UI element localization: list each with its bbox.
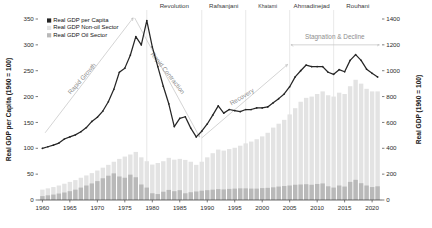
- x-tick-label: 2000: [255, 204, 269, 211]
- data-point: [278, 98, 280, 100]
- y-axis-title-right: Real GDP (1960 = 100): [415, 75, 423, 144]
- bar-nonoil: [326, 95, 330, 200]
- bar-nonoil: [359, 84, 363, 200]
- bar-oil: [51, 195, 55, 200]
- bar-oil: [183, 193, 187, 200]
- annotation-label-recovery: Recovery: [228, 86, 256, 107]
- bar-oil: [266, 188, 270, 200]
- bar-oil: [309, 185, 313, 200]
- bar-oil: [79, 188, 83, 200]
- bar-oil: [282, 186, 286, 200]
- data-point: [327, 71, 329, 73]
- data-point: [250, 109, 252, 111]
- data-point: [305, 64, 307, 66]
- data-point: [151, 46, 153, 48]
- legend-label-1: Real GDP Non-oil Sector: [53, 24, 118, 30]
- annotation-label-rapid-growth: Rapid Growth: [66, 61, 98, 96]
- data-point: [129, 54, 131, 56]
- bar-nonoil: [342, 94, 346, 200]
- data-point: [64, 138, 66, 140]
- bar-oil: [117, 176, 121, 200]
- x-tick-label: 1965: [63, 204, 77, 211]
- data-point: [316, 66, 318, 68]
- y-tick-label-right: 1400: [386, 15, 400, 22]
- data-point: [283, 93, 285, 95]
- data-point: [261, 107, 263, 109]
- bar-oil: [304, 184, 308, 200]
- y-tick-label-right: 0: [386, 196, 390, 203]
- data-point: [162, 85, 164, 87]
- bar-nonoil: [331, 97, 335, 200]
- data-point: [217, 105, 219, 107]
- y-tick-label-right: 400: [386, 144, 397, 151]
- annotation-arrow-rapid-contraction: [135, 18, 200, 137]
- data-point: [173, 126, 175, 128]
- bar-oil: [249, 189, 253, 200]
- data-point: [360, 60, 362, 62]
- x-tick-label: 1980: [145, 204, 159, 211]
- bar-oil: [178, 190, 182, 200]
- y-tick-label-left: 250: [23, 67, 34, 74]
- bar-oil: [84, 186, 88, 200]
- data-point: [212, 114, 214, 116]
- annotation-label-stagnation-decline: Stagnation & Decline: [305, 33, 365, 41]
- data-point: [371, 72, 373, 74]
- x-tick-label: 2015: [338, 204, 352, 211]
- bar-oil: [106, 176, 110, 200]
- bar-oil: [244, 188, 248, 200]
- data-point: [223, 112, 225, 114]
- bar-oil: [320, 183, 324, 200]
- data-point: [234, 110, 236, 112]
- data-point: [91, 121, 93, 123]
- data-point: [206, 123, 208, 125]
- data-point: [322, 66, 324, 68]
- bar-oil: [172, 191, 176, 200]
- data-point: [184, 116, 186, 118]
- data-point: [366, 68, 368, 70]
- data-point: [256, 107, 258, 109]
- bar-oil: [189, 192, 193, 200]
- y-tick-label-left: 150: [23, 119, 34, 126]
- legend-label-0: Real GDP per Capita: [53, 17, 109, 23]
- y-tick-label-left: 200: [23, 93, 34, 100]
- bar-oil: [331, 188, 335, 200]
- bar-oil: [112, 173, 116, 200]
- bar-oil: [101, 178, 105, 200]
- data-point: [124, 67, 126, 69]
- bar-oil: [238, 188, 242, 200]
- data-point: [294, 76, 296, 78]
- data-point: [333, 73, 335, 75]
- bar-nonoil: [337, 93, 341, 200]
- data-point: [245, 109, 247, 111]
- bar-oil: [326, 186, 330, 200]
- x-tick-label: 2010: [310, 204, 324, 211]
- data-point: [96, 116, 98, 118]
- data-point: [355, 54, 357, 56]
- bar-oil: [134, 177, 138, 200]
- chart-figure: Rapid GrowthRapid ContractionRecoverySta…: [0, 0, 432, 228]
- data-point: [58, 142, 60, 144]
- bar-oil: [233, 189, 237, 200]
- data-point: [239, 111, 241, 113]
- y-tick-label-left: 300: [23, 41, 34, 48]
- bar-oil: [353, 180, 357, 200]
- bar-oil: [315, 184, 319, 200]
- era-label-khatami: Khatami: [258, 3, 277, 9]
- bar-oil: [364, 186, 368, 200]
- bar-nonoil: [370, 91, 374, 200]
- bar-oil: [90, 183, 94, 200]
- bar-oil: [337, 186, 341, 200]
- bar-oil: [200, 191, 204, 200]
- bar-oil: [57, 194, 61, 200]
- annotation-label-rapid-contraction: Rapid Contraction: [149, 50, 187, 96]
- data-point: [102, 110, 104, 112]
- data-point: [118, 71, 120, 73]
- bar-oil: [375, 186, 379, 200]
- era-label-rouhani: Rouhani: [346, 2, 369, 9]
- bar-oil: [46, 195, 50, 200]
- y-tick-label-right: 600: [386, 119, 397, 126]
- legend-swatch-2: [47, 33, 51, 37]
- data-point: [113, 88, 115, 90]
- data-point: [86, 127, 88, 129]
- legend-label-2: Real GDP Oil Sector: [53, 32, 107, 38]
